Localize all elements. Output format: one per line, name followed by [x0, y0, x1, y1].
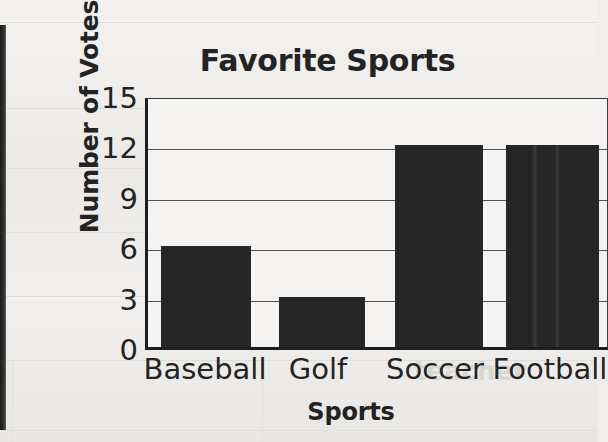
y-tick-label: 15: [101, 84, 138, 113]
bars-layer: [148, 99, 607, 347]
x-tick-label-soccer: Soccer: [386, 354, 484, 386]
bar-golf[interactable]: [279, 297, 365, 347]
paper-rule-line: [12, 360, 13, 442]
x-axis-tick-labels: Baseball Golf Soccer Football: [145, 354, 608, 392]
page-edge-shadow: [0, 25, 6, 430]
y-tick-label: 9: [120, 184, 138, 213]
x-tick-label-baseball: Baseball: [144, 354, 267, 386]
y-tick-label: 0: [120, 336, 138, 365]
bar-soccer[interactable]: [395, 145, 483, 347]
plot-area: [145, 98, 608, 350]
chart-title: Favorite Sports: [40, 43, 557, 78]
y-tick-label: 12: [101, 134, 138, 163]
y-tick-label: 6: [120, 235, 138, 264]
x-tick-label-football: Football: [493, 354, 608, 386]
y-axis-tick-labels: 15 12 9 6 3 0: [96, 98, 138, 350]
x-tick-label-golf: Golf: [289, 354, 347, 386]
paper-rule-line: [0, 430, 597, 431]
bar-baseball[interactable]: [161, 246, 251, 347]
bar-chart: Favorite Sports Number of Votes 15 12 9 …: [40, 16, 557, 426]
x-axis-label: Sports: [145, 398, 557, 426]
bar-football[interactable]: [506, 145, 599, 347]
y-tick-label: 3: [120, 285, 138, 314]
